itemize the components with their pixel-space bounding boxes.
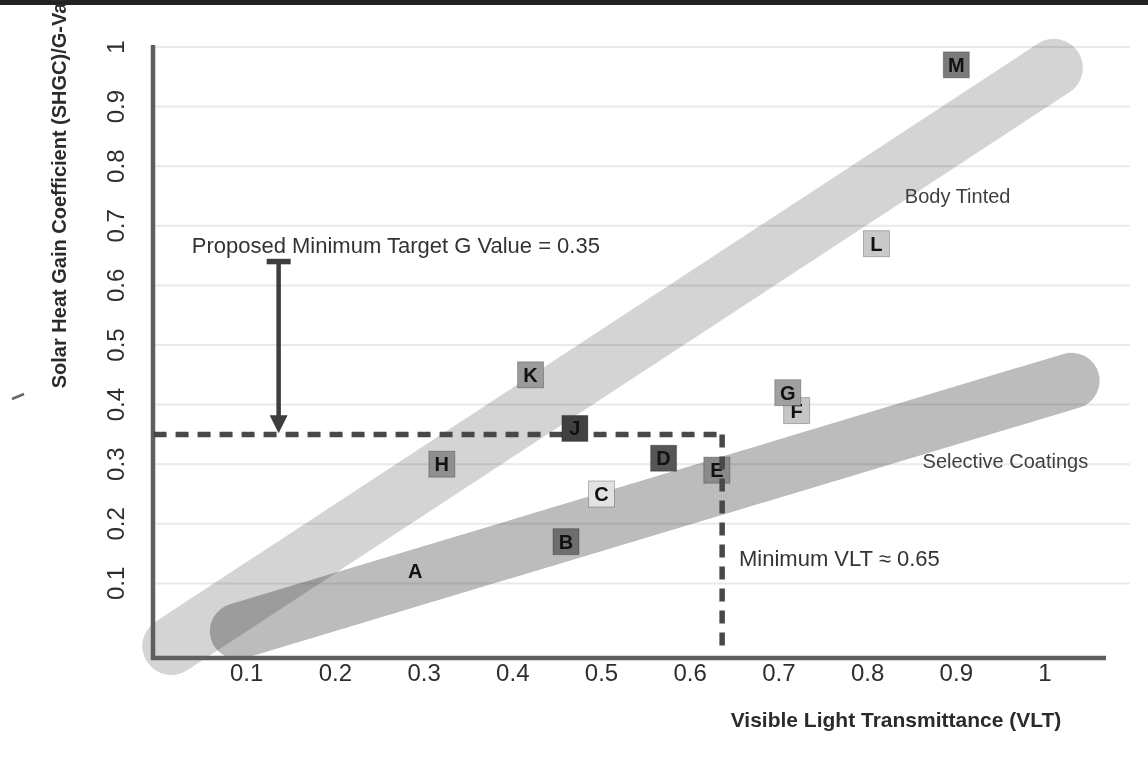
chart-page: Visible Light Transmittance (VLT) Solar … — [0, 0, 1148, 772]
x-tick-label-1: 1 — [1038, 659, 1051, 686]
point-label-J: J — [569, 417, 580, 439]
point-label-C: C — [594, 483, 608, 505]
x-tick-label-0.8: 0.8 — [851, 659, 884, 686]
point-label-A: A — [408, 560, 422, 582]
x-tick-label-0.7: 0.7 — [762, 659, 795, 686]
y-tick-label-0.5: 0.5 — [102, 328, 129, 361]
x-tick-label-0.5: 0.5 — [585, 659, 618, 686]
x-tick-label-0.6: 0.6 — [674, 659, 707, 686]
shgc-vlt-scatter-chart: Visible Light Transmittance (VLT) Solar … — [0, 0, 1148, 772]
point-label-D: D — [656, 447, 670, 469]
y-tick-label-0.1: 0.1 — [102, 567, 129, 600]
point-label-B: B — [559, 531, 573, 553]
y-tick-label-0.9: 0.9 — [102, 90, 129, 123]
y-tick-label-0.6: 0.6 — [102, 269, 129, 302]
point-label-L: L — [870, 233, 882, 255]
y-tick-label-0.7: 0.7 — [102, 209, 129, 242]
y-tick-label-0.4: 0.4 — [102, 388, 129, 421]
annotation-target-g: Proposed Minimum Target G Value = 0.35 — [192, 233, 600, 258]
point-label-K: K — [523, 364, 538, 386]
x-tick-label-0.2: 0.2 — [319, 659, 352, 686]
x-tick-label-0.9: 0.9 — [940, 659, 973, 686]
band-label-body-tinted: Body Tinted — [905, 185, 1011, 207]
y-tick-label-0.2: 0.2 — [102, 507, 129, 540]
x-tick-label-0.1: 0.1 — [230, 659, 263, 686]
arrow-head-down-icon — [270, 415, 288, 433]
y-axis-title: Solar Heat Gain Coefficient (SHGC)/G-Val… — [48, 0, 70, 388]
annotation-min-vlt: Minimum VLT ≈ 0.65 — [739, 546, 940, 571]
point-label-M: M — [948, 54, 965, 76]
x-axis-title: Visible Light Transmittance (VLT) — [731, 708, 1062, 731]
y-tick-label-0.8: 0.8 — [102, 150, 129, 183]
x-tick-label-0.4: 0.4 — [496, 659, 529, 686]
x-tick-label-0.3: 0.3 — [407, 659, 440, 686]
point-label-H: H — [435, 453, 449, 475]
y-tick-label-1: 1 — [102, 40, 129, 53]
point-label-G: G — [780, 382, 796, 404]
y-tick-label-0.3: 0.3 — [102, 448, 129, 481]
band-label-selective-coatings: Selective Coatings — [923, 450, 1089, 472]
scan-artifact-mark — [12, 394, 24, 399]
